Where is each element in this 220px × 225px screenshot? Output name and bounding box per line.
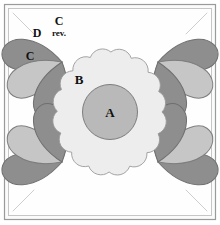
- label-b: B: [75, 72, 84, 87]
- label-c-rev-main: C: [55, 14, 64, 28]
- label-d: D: [33, 26, 42, 40]
- pattern-svg-canvas: A B C D C rev.: [0, 0, 220, 225]
- label-c: C: [26, 49, 35, 63]
- label-c-rev-sub: rev.: [52, 28, 66, 38]
- pattern-block-diagram: A B C D C rev.: [0, 0, 220, 225]
- label-a: A: [105, 105, 115, 120]
